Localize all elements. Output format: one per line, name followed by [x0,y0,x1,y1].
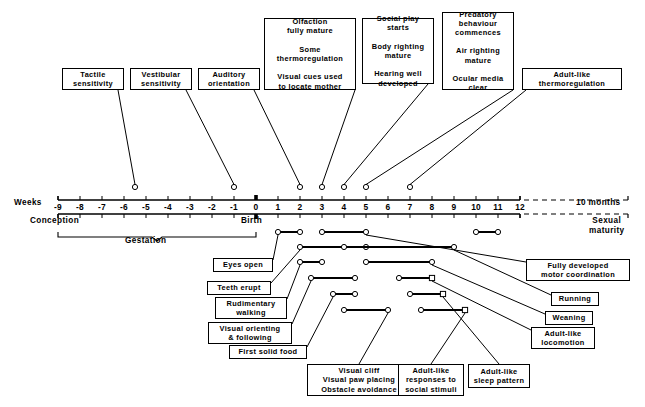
event-box-weaning[interactable]: Weaning [545,311,593,325]
event-marker-social-play-body-righting-hearing [341,184,346,189]
axis-tick-label-4: 4 [342,202,347,212]
event-box-auditory-orientation[interactable]: Auditory orientation [198,68,260,90]
leader-auditory-orientation [254,90,300,185]
event-bar-end-visual-orienting-following [352,275,357,280]
event-bar-start-fully-developed-motor-coordination [319,229,324,234]
axis-label-weeks: Weeks [14,198,42,207]
event-bar-start-rudimentary-walking [297,259,302,264]
axis-tick-label--7: -7 [98,202,106,212]
leader-predatory-air-righting-ocular [366,90,513,185]
event-box-teeth-erupt[interactable]: Teeth erupt [207,281,271,295]
leader-tactile-sensitivity [118,90,135,185]
event-bar-start-visual-cliff-paw-placing-obstacle [341,307,346,312]
axis-tick-label-6: 6 [386,202,391,212]
axis-tick-label--3: -3 [186,202,194,212]
event-box-fully-developed-motor-coordination[interactable]: Fully developed motor coordination [526,259,630,281]
axis-label-birth: Birth [241,216,262,225]
event-box-rudimentary-walking[interactable]: Rudimentary walking [215,297,287,319]
event-box-first-solid-food[interactable]: First solid food [229,345,307,359]
event-bar-end-late-bar-10-11 [495,229,500,234]
leader-adult-like-thermoregulation [410,90,526,185]
axis-tick-label-2: 2 [298,202,303,212]
event-box-tactile-sensitivity[interactable]: Tactile sensitivity [62,68,124,90]
event-bar-end-weaning [429,259,434,264]
axis-tick-label--8: -8 [76,202,84,212]
axis-label-10-months: 10 months [576,198,621,207]
axis-tick-label--9: -9 [54,202,62,212]
axis-label-sexual-maturity: Sexual maturity [589,216,625,235]
axis-tick-label--4: -4 [164,202,172,212]
leader-eyes-open [273,235,278,260]
leader-visual-orienting-following [292,281,311,324]
event-bar-end-adult-like-locomotion [429,275,434,280]
event-box-adult-like-locomotion[interactable]: Adult-like locomotion [531,327,595,349]
event-box-eyes-open[interactable]: Eyes open [213,258,273,272]
axis-tick-label-0: 0 [254,202,259,212]
leader-teeth-erupt [271,250,300,283]
event-bar-end-visual-cliff-paw-placing-obstacle [385,307,390,312]
event-box-visual-orienting-following[interactable]: Visual orienting & following [208,322,292,344]
axis-label-conception: Conception [30,216,79,225]
event-bar-start-weaning [363,259,368,264]
event-bar-start-eyes-open [275,229,280,234]
event-bar-end-adult-like-responses-social [462,307,467,312]
axis-tick-label-8: 8 [430,202,435,212]
axis-tick-birth-upper [254,195,258,200]
event-bar-end-running [451,244,456,249]
event-box-adult-like-sleep-pattern[interactable]: Adult-like sleep pattern [468,364,530,388]
event-marker-adult-like-thermoregulation [407,184,412,189]
axis-tick-label-1: 1 [276,202,281,212]
event-box-olfaction-thermoregulation-visual-cues[interactable]: Olfaction fully mature Some thermoregula… [264,18,356,90]
axis-tick-label-3: 3 [320,202,325,212]
event-box-adult-like-thermoregulation[interactable]: Adult-like thermoregulation [522,68,622,90]
timeline-figure: Weeks Conception Birth Gestation 10 mont… [0,0,645,407]
event-bar-start-running [341,244,346,249]
leader-adult-like-sleep-pattern [443,297,499,364]
event-marker-olfaction-thermoregulation-visual-cues [319,184,324,189]
event-box-vestibular-sensitivity[interactable]: Vestibular sensitivity [130,68,192,90]
event-marker-auditory-orientation [297,184,302,189]
axis-label-gestation: Gestation [125,236,166,245]
axis-tick-label--1: -1 [230,202,238,212]
event-bar-end-adult-like-sleep-pattern [440,291,445,296]
axis-tick-label-11: 11 [493,202,502,212]
event-bar-end-rudimentary-walking [319,259,324,264]
leader-adult-like-responses-social [431,313,465,364]
axis-tick-label--2: -2 [208,202,216,212]
leader-vestibular-sensitivity [186,90,234,185]
axis-tick-label-10: 10 [471,202,481,212]
event-marker-tactile-sensitivity [132,184,137,189]
event-box-social-play-body-righting-hearing[interactable]: Social play starts Body righting mature … [362,18,434,84]
axis-tick-label--5: -5 [142,202,150,212]
leader-olfaction-thermoregulation-visual-cues [322,90,355,185]
event-box-visual-cliff-paw-placing-obstacle[interactable]: Visual cliff Visual paw placing Obstacle… [307,364,411,396]
leader-first-solid-food [307,297,333,347]
event-marker-predatory-air-righting-ocular [363,184,368,189]
event-bar-start-adult-like-sleep-pattern [407,291,412,296]
event-bar-start-adult-like-responses-social [418,307,423,312]
event-box-adult-like-responses-social[interactable]: Adult-like responses to social stimuli [398,364,464,396]
event-bar-start-adult-like-locomotion [396,275,401,280]
axis-tick-label--6: -6 [120,202,128,212]
event-marker-vestibular-sensitivity [231,184,236,189]
event-bar-start-late-bar-10-11 [473,229,478,234]
event-bar-start-teeth-erupt [297,244,302,249]
event-bar-end-first-solid-food [352,291,357,296]
leader-fully-developed-motor-coordination [366,235,526,262]
leader-adult-like-locomotion [432,281,531,330]
leader-social-play-body-righting-hearing [344,84,428,185]
event-bar-start-visual-orienting-following [308,275,313,280]
axis-tick-label-12: 12 [515,202,525,212]
event-box-predatory-air-righting-ocular[interactable]: Predatory behaviour commences Air righti… [442,12,514,90]
event-bar-end-fully-developed-motor-coordination [363,229,368,234]
event-box-running[interactable]: Running [551,292,599,306]
axis-tick-label-7: 7 [408,202,413,212]
leader-visual-cliff-paw-placing-obstacle [359,313,388,364]
leader-rudimentary-walking [287,265,300,299]
event-bar-end-eyes-open [297,229,302,234]
axis-tick-label-5: 5 [364,202,369,212]
event-bar-start-first-solid-food [330,291,335,296]
axis-tick-label-9: 9 [452,202,457,212]
